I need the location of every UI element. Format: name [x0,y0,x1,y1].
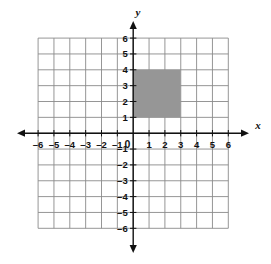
x-tick-label: 1 [146,139,152,150]
origin-label: 0 [125,138,131,150]
x-tick-label: 5 [210,139,216,150]
x-tick-label: 3 [178,139,183,150]
shaded-regions [133,70,181,118]
y-tick-label: –5 [117,207,128,218]
y-tick-label: 1 [122,112,128,123]
y-tick-label: –6 [117,223,128,234]
y-tick-label: 5 [122,48,128,59]
x-tick-label: 4 [194,139,200,150]
y-tick-label: –3 [117,175,128,186]
y-tick-label: 3 [122,80,127,91]
y-tick-label: –2 [117,159,128,170]
y-tick-label: –4 [117,191,128,202]
coordinate-grid-figure: –6–5–4–3–2–1123456 654321–1–2–3–4–5–6 0 … [0,0,271,264]
y-tick-label: 6 [122,33,127,44]
shaded-square [133,70,181,118]
figure-background [0,0,271,264]
x-tick-label: –2 [96,139,107,150]
x-tick-label: 6 [226,139,231,150]
x-tick-label: –6 [33,139,44,150]
y-tick-label: 4 [122,64,128,75]
x-tick-label: –4 [65,139,76,150]
y-tick-label: 2 [122,96,127,107]
x-tick-label: –3 [80,139,91,150]
y-axis-label: y [134,6,141,18]
coordinate-plane: –6–5–4–3–2–1123456 654321–1–2–3–4–5–6 0 … [0,0,271,264]
x-axis-label: x [254,119,261,131]
x-tick-label: 2 [162,139,167,150]
x-tick-label: –5 [49,139,60,150]
